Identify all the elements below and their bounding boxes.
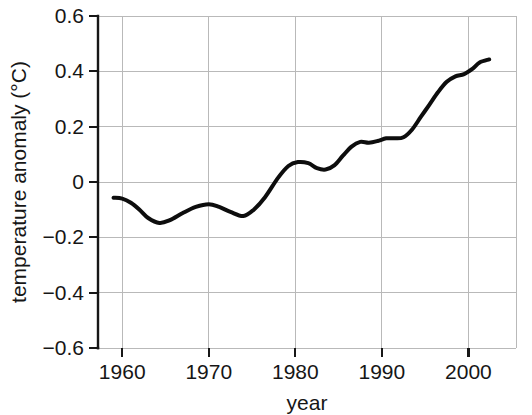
x-tick-label: 1980 — [272, 360, 319, 383]
x-axis-title: year — [287, 391, 328, 414]
chart-svg: 0.60.40.20−0.2−0.4−0.6 19601970198019902… — [0, 0, 532, 415]
y-tick-label: 0 — [72, 170, 84, 193]
x-tick-label: 1970 — [185, 360, 232, 383]
y-tick-label: 0.6 — [55, 4, 84, 27]
x-tick-label: 2000 — [445, 360, 492, 383]
x-tick-label: 1990 — [358, 360, 405, 383]
y-tick-label: −0.2 — [43, 225, 84, 248]
y-tick-label: −0.4 — [43, 281, 85, 304]
y-tick-label: 0.2 — [55, 115, 84, 138]
y-tick-label: 0.4 — [55, 59, 85, 82]
y-tick-label: −0.6 — [43, 336, 84, 359]
temperature-anomaly-chart: 0.60.40.20−0.2−0.4−0.6 19601970198019902… — [0, 0, 532, 415]
y-axis-title: temperature anomaly (°C) — [7, 61, 30, 303]
x-tick-label: 1960 — [99, 360, 146, 383]
